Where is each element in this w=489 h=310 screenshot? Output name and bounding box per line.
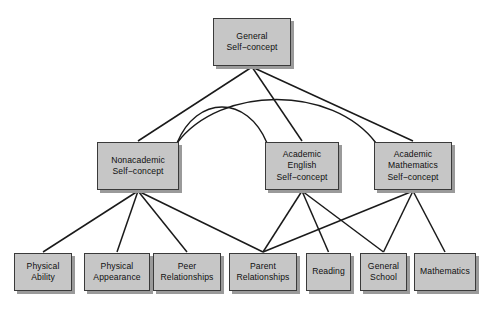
self-concept-hierarchy-diagram: GeneralSelf−conceptNonacademicSelf−conce… (0, 0, 489, 310)
node-label-reading: Reading (310, 266, 347, 277)
node-academic-english[interactable]: AcademicEnglishSelf−concept (265, 142, 339, 190)
node-physical-appearance[interactable]: PhysicalAppearance (84, 253, 150, 291)
node-label-general: GeneralSelf−concept (224, 31, 279, 54)
edge-nonacademic-to-parent-relationships (138, 191, 263, 252)
node-label-nonacademic: NonacademicSelf−concept (109, 155, 167, 178)
node-label-parent-relationships: ParentRelationships (235, 261, 292, 284)
node-label-mathematics: Mathematics (418, 266, 472, 277)
node-nonacademic[interactable]: NonacademicSelf−concept (97, 142, 179, 190)
node-peer-relationships[interactable]: PeerRelationships (153, 253, 221, 291)
node-label-peer-relationships: PeerRelationships (159, 261, 216, 284)
edge-nonacademic-to-peer-relationships (138, 191, 187, 252)
edge-nonacademic-to-physical-ability (43, 191, 138, 252)
edge-academic-mathematics-to-mathematics (413, 191, 445, 252)
node-general-school[interactable]: GeneralSchool (360, 253, 407, 291)
node-mathematics[interactable]: Mathematics (414, 253, 476, 291)
edge-nonacademic-to-academic-mathematics (177, 100, 376, 144)
edge-academic-english-to-general-school (302, 191, 384, 252)
node-general[interactable]: GeneralSelf−concept (213, 18, 291, 66)
node-label-academic-english: AcademicEnglishSelf−concept (274, 149, 329, 183)
edge-academic-mathematics-to-general-school (384, 191, 414, 252)
node-academic-mathematics[interactable]: AcademicMathematicsSelf−concept (374, 142, 452, 190)
node-label-physical-ability: PhysicalAbility (25, 261, 62, 284)
node-reading[interactable]: Reading (306, 253, 351, 291)
node-label-general-school: GeneralSchool (366, 261, 401, 284)
edge-academic-english-to-reading (302, 191, 329, 252)
edge-nonacademic-to-physical-appearance (117, 191, 138, 252)
node-physical-ability[interactable]: PhysicalAbility (14, 253, 72, 291)
edge-nonacademic-to-academic-english (177, 107, 267, 143)
node-label-physical-appearance: PhysicalAppearance (91, 261, 142, 284)
edge-academic-english-to-parent-relationships (263, 191, 302, 252)
node-label-academic-mathematics: AcademicMathematicsSelf−concept (385, 149, 440, 183)
edge-general-to-nonacademic (138, 67, 252, 141)
node-parent-relationships[interactable]: ParentRelationships (229, 253, 297, 291)
edge-academic-mathematics-to-parent-relationships (263, 191, 413, 252)
edge-general-to-academic-english (252, 67, 302, 141)
edge-general-to-academic-mathematics (252, 67, 413, 141)
